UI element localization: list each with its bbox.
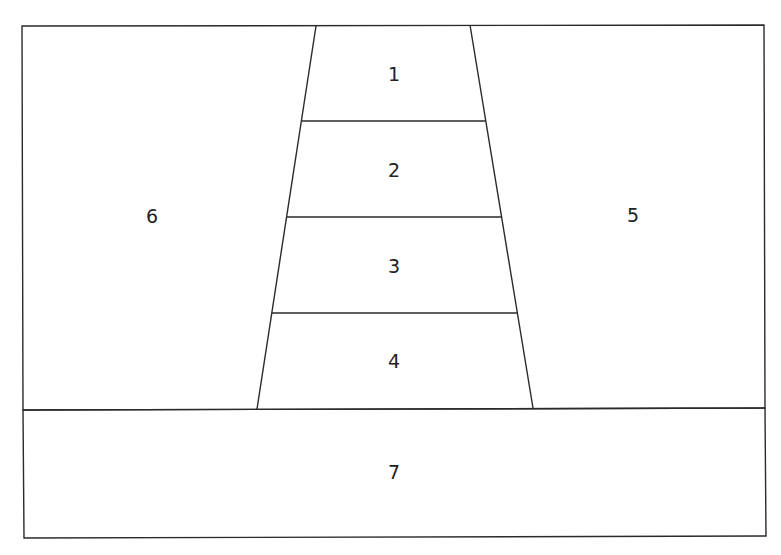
layer-diagram: 1 2 3 4 5 6 7 [0,0,781,555]
region-7-label: 7 [388,461,400,483]
region-1-label: 1 [388,63,400,85]
region-6-label: 6 [146,205,158,227]
region-3-label: 3 [388,255,400,277]
region-2-label: 2 [388,159,400,181]
region-4-label: 4 [388,350,400,372]
region-5-label: 5 [627,204,639,226]
